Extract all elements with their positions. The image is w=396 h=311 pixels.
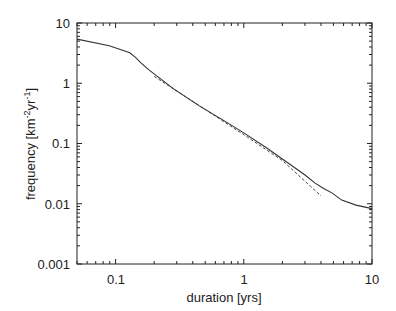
x-axis-label: duration [yrs] [186, 290, 261, 305]
fit-line [154, 76, 321, 195]
y-tick-label: 0.001 [37, 257, 70, 272]
y-tick-label: 0.01 [45, 197, 70, 212]
log-log-chart: 0.1 1 10 10 1 0.1 0.01 0.001 duration [y… [0, 0, 396, 311]
axis-ticks [77, 23, 372, 264]
y-tick-labels: 10 1 0.1 0.01 0.001 [37, 16, 70, 272]
data-series [77, 39, 372, 209]
plot-area [77, 23, 372, 264]
x-tick-label: 1 [240, 272, 247, 287]
y-tick-label: 10 [56, 16, 70, 31]
data-line [77, 39, 372, 209]
y-axis-label: frequency [km-2yr-1] [22, 88, 38, 200]
y-tick-label: 1 [63, 76, 70, 91]
y-tick-label: 0.1 [52, 136, 70, 151]
x-tick-labels: 0.1 1 10 [107, 272, 379, 287]
x-tick-label: 10 [365, 272, 379, 287]
x-tick-label: 0.1 [107, 272, 125, 287]
